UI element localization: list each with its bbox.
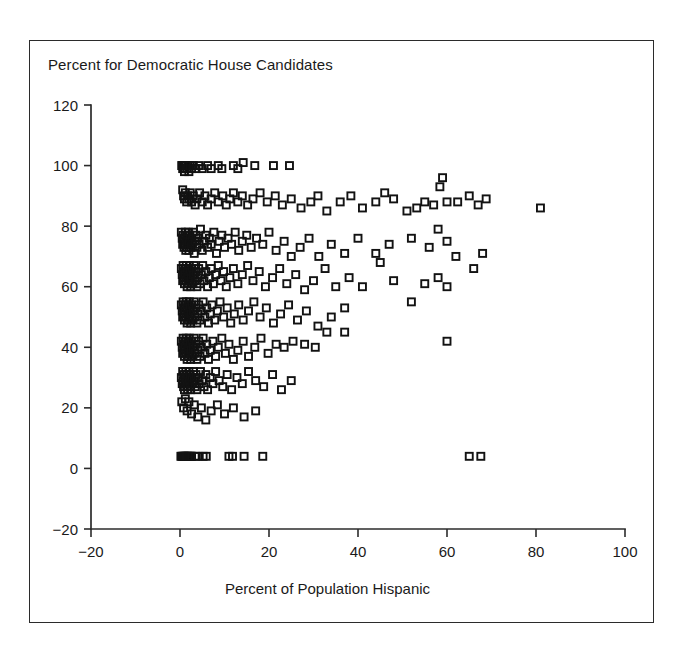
x-axis-label-text: Percent of Population Hispanic <box>225 580 430 597</box>
x-axis-label: Percent of Population Hispanic <box>0 580 683 597</box>
figure-frame <box>29 40 654 623</box>
chart-title: Percent for Democratic House Candidates <box>48 56 333 73</box>
